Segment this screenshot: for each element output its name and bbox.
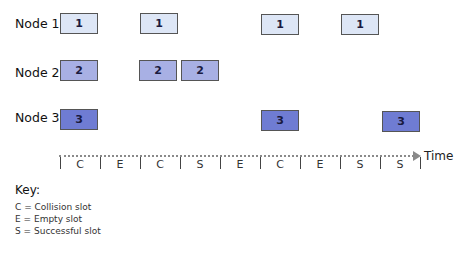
time-axis-label: Time — [424, 149, 453, 163]
slot-label: E — [100, 158, 140, 171]
slot-label: S — [340, 158, 380, 171]
node-2-label: Node 2 — [15, 65, 60, 80]
slot-label: C — [260, 158, 300, 171]
node-3-label: Node 3 — [15, 110, 60, 125]
node-1-label: Node 1 — [15, 16, 60, 31]
slot-label: S — [380, 158, 420, 171]
slot-tick — [420, 157, 421, 169]
node-3-transmission: 3 — [60, 109, 98, 130]
slot-label: C — [60, 158, 100, 171]
key-title: Key: — [15, 183, 40, 197]
slot-label: C — [140, 158, 180, 171]
node-2-transmission: 2 — [139, 60, 177, 81]
key-item-empty: E = Empty slot — [15, 214, 82, 224]
key-item-successful: S = Successful slot — [15, 226, 101, 236]
node-3-transmission: 3 — [382, 111, 420, 132]
node-2-transmission: 2 — [60, 60, 98, 81]
node-1-transmission: 1 — [341, 14, 379, 35]
time-axis — [59, 155, 414, 157]
slot-label: S — [180, 158, 220, 171]
node-1-transmission: 1 — [261, 14, 299, 35]
node-1-transmission: 1 — [60, 13, 98, 34]
node-2-transmission: 2 — [181, 60, 219, 81]
node-3-transmission: 3 — [261, 110, 299, 131]
node-1-transmission: 1 — [140, 13, 178, 34]
slot-label: E — [220, 158, 260, 171]
key-item-collision: C = Collision slot — [15, 202, 91, 212]
slot-label: E — [300, 158, 340, 171]
